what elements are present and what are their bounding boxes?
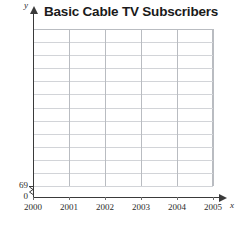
gridline-horizontal bbox=[33, 186, 213, 187]
gridline-horizontal bbox=[33, 173, 213, 174]
gridline-horizontal bbox=[33, 134, 213, 135]
gridline-horizontal bbox=[33, 55, 213, 56]
x-tick-mark bbox=[177, 197, 178, 200]
x-tick-mark bbox=[69, 197, 70, 200]
x-tick-mark bbox=[33, 197, 34, 200]
x-tick-label: 2003 bbox=[132, 202, 150, 212]
gridline-horizontal bbox=[33, 121, 213, 122]
x-tick-mark bbox=[105, 197, 106, 200]
gridline-vertical bbox=[141, 29, 142, 186]
y-axis-arrow-icon bbox=[30, 6, 38, 14]
grid-top-border bbox=[33, 29, 213, 30]
x-tick-label: 2000 bbox=[24, 202, 42, 212]
gridline-vertical bbox=[69, 29, 70, 186]
x-tick-mark bbox=[213, 197, 214, 200]
gridline-horizontal bbox=[33, 147, 213, 148]
gridline-horizontal bbox=[33, 94, 213, 95]
y-tick-label-69: 69 bbox=[6, 180, 28, 190]
chart-container: Basic Cable TV Subscribers y x 69 0 2000… bbox=[0, 0, 246, 226]
x-axis-tick-labels: 200020012002200320042005 bbox=[0, 202, 246, 216]
x-axis-arrow-icon bbox=[219, 194, 227, 202]
gridline-horizontal bbox=[33, 68, 213, 69]
gridline-horizontal bbox=[33, 160, 213, 161]
plot-area bbox=[33, 29, 213, 186]
x-tick-label: 2002 bbox=[96, 202, 114, 212]
gridline-horizontal bbox=[33, 81, 213, 82]
y-axis-line bbox=[33, 12, 34, 198]
gridline-horizontal bbox=[33, 108, 213, 109]
gridline-vertical bbox=[177, 29, 178, 186]
chart-title: Basic Cable TV Subscribers bbox=[44, 4, 218, 19]
gridline-vertical bbox=[105, 29, 106, 186]
x-tick-label: 2001 bbox=[60, 202, 78, 212]
x-tick-mark bbox=[141, 197, 142, 200]
gridline-vertical bbox=[213, 29, 214, 186]
x-axis-line bbox=[33, 197, 221, 198]
x-tick-label: 2004 bbox=[168, 202, 186, 212]
gridline-horizontal bbox=[33, 42, 213, 43]
y-axis-label: y bbox=[24, 0, 28, 10]
axis-break-icon bbox=[29, 186, 38, 195]
x-tick-label: 2005 bbox=[204, 202, 222, 212]
y-tick-label-origin: 0 bbox=[6, 191, 28, 201]
